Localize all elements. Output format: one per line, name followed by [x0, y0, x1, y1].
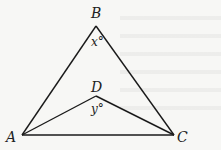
vertex-label-c: C: [177, 130, 188, 144]
vertex-label-d: D: [91, 80, 102, 94]
segment-ad: [22, 96, 96, 135]
segment-ab: [22, 26, 96, 135]
angle-label-y: y°: [91, 103, 104, 115]
vertex-label-b: B: [91, 6, 101, 20]
triangle-diagram: [0, 0, 221, 150]
vertex-label-a: A: [6, 130, 16, 144]
angle-label-x: x°: [91, 36, 104, 48]
segment-bc: [96, 26, 174, 135]
segment-dc: [96, 96, 174, 135]
